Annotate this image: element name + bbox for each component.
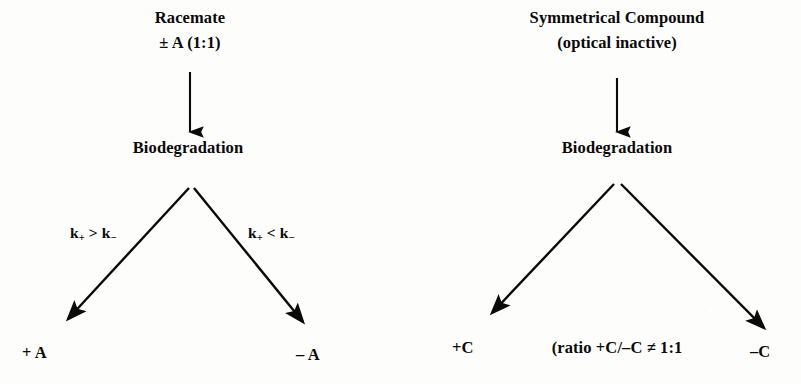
rate-sub-plus-left: + xyxy=(79,232,85,243)
rate-sub-plus-right: + xyxy=(257,232,263,243)
rate-sub-minus-left: − xyxy=(110,232,116,243)
rate-label-k-plus-less-k-minus: k+ < k− xyxy=(248,225,295,243)
arrow-branch-minus-a xyxy=(194,188,303,322)
figure-canvas: Racemate ± A (1:1) Biodegradation k+ > k… xyxy=(0,0,801,384)
ratio-note: (ratio +C/–C ≠ 1:1 xyxy=(552,340,683,357)
rate-label-k-plus-greater-k-minus: k+ > k− xyxy=(70,225,117,243)
product-plus-c: +C xyxy=(452,340,474,357)
arrow-branch-plus-c xyxy=(492,184,614,313)
symmetrical-biodegradation-node: Biodegradation xyxy=(562,140,673,157)
rate-sub-minus-right: − xyxy=(288,232,294,243)
rate-operator-less: < xyxy=(267,224,276,241)
arrow-branch-minus-c xyxy=(621,184,764,328)
arrow-branch-plus-a xyxy=(68,188,189,319)
symmetrical-title-line1: Symmetrical Compound xyxy=(530,10,705,27)
rate-operator-greater: > xyxy=(89,224,98,241)
arrow-layer xyxy=(0,0,801,384)
racemate-title-line1: Racemate xyxy=(155,10,225,27)
racemate-title-line2: ± A (1:1) xyxy=(159,35,220,52)
product-plus-a: + A xyxy=(22,345,47,362)
product-minus-a: – A xyxy=(296,347,320,364)
racemate-biodegradation-node: Biodegradation xyxy=(133,140,244,157)
product-minus-c: –C xyxy=(750,344,770,361)
paper-grain xyxy=(0,0,801,384)
symmetrical-title-line2: (optical inactive) xyxy=(557,35,677,52)
